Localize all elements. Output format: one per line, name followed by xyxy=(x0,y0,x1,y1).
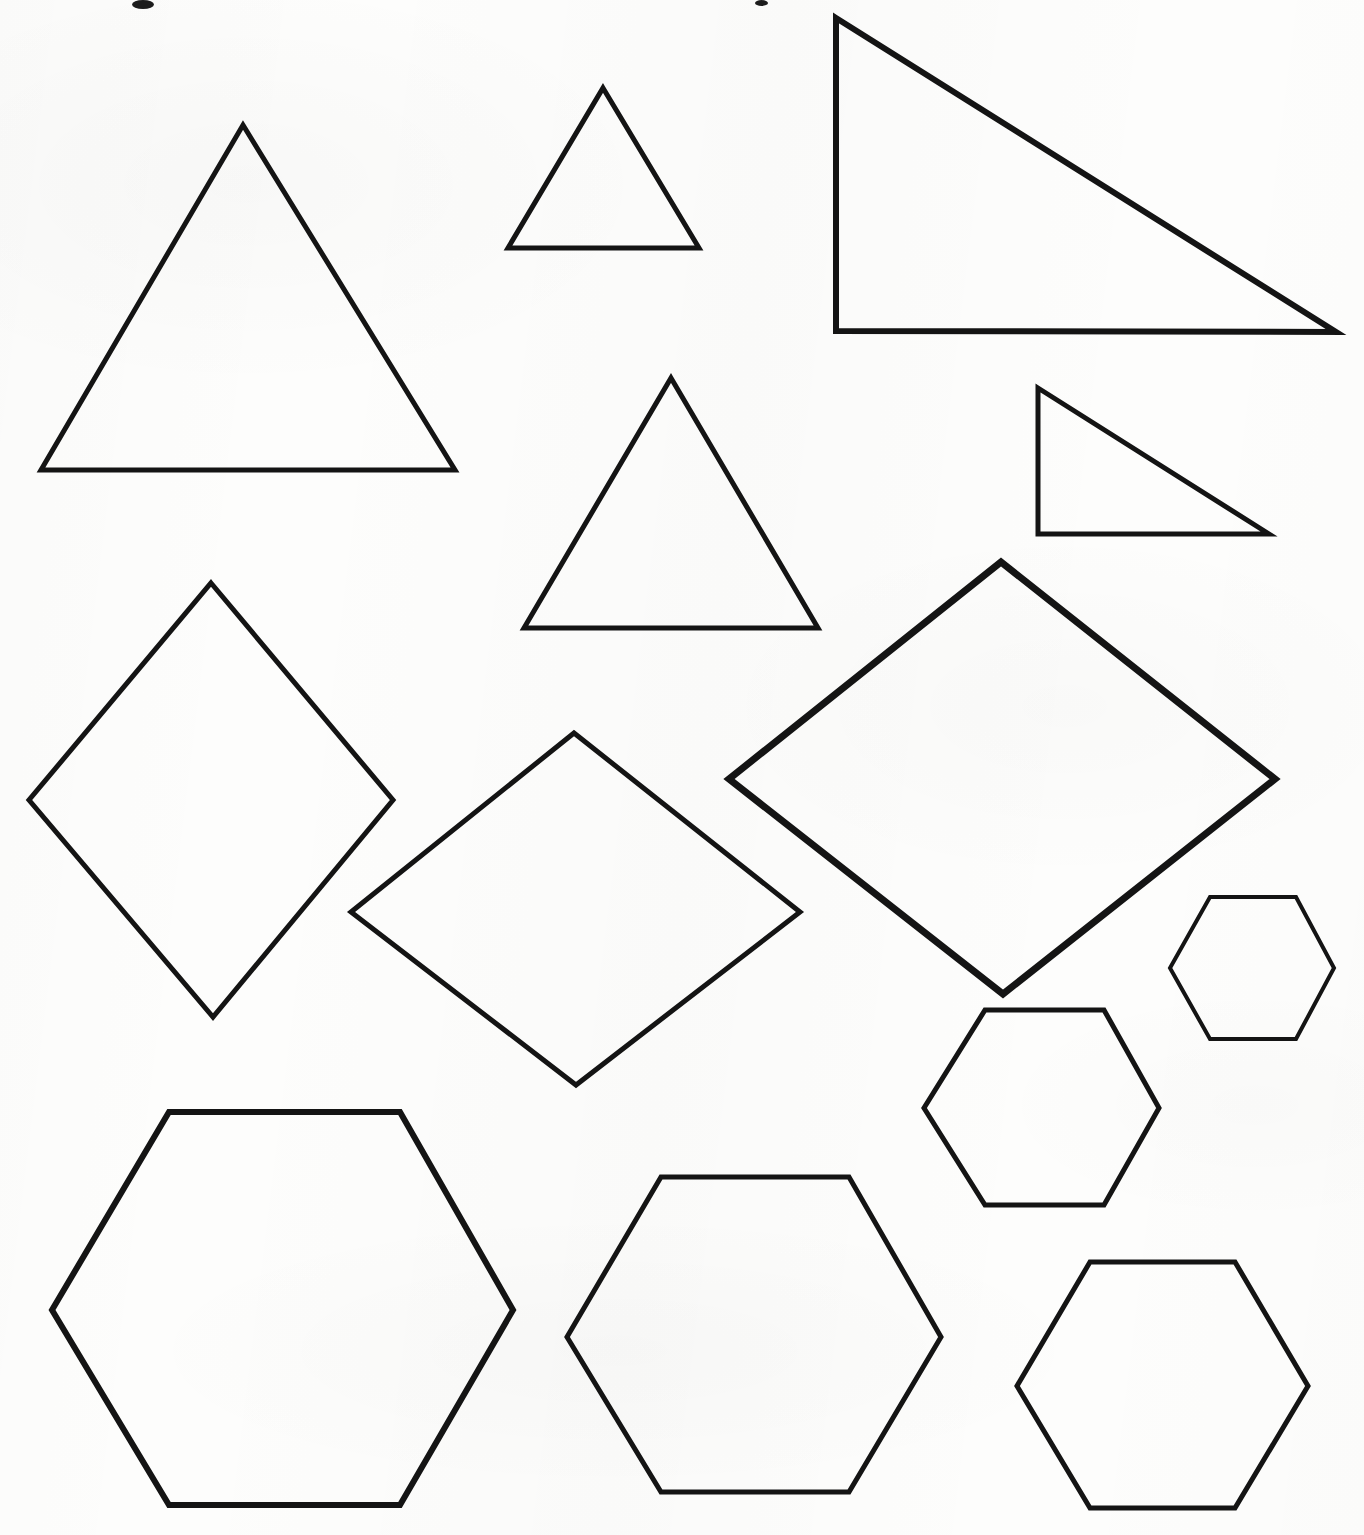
shape-group xyxy=(29,18,1336,1508)
triangle-right-large xyxy=(836,18,1336,332)
triangle-equilateral-small xyxy=(508,88,699,248)
hexagon-medium-right xyxy=(924,1010,1159,1205)
hexagon-large-left xyxy=(52,1112,513,1505)
hexagon-small-right xyxy=(1170,897,1334,1039)
shape-canvas xyxy=(0,0,1364,1535)
triangle-equilateral-large xyxy=(41,125,455,470)
worksheet-page xyxy=(0,0,1364,1535)
rhombus-tall-left xyxy=(29,583,393,1017)
hexagon-medium-bottom-right xyxy=(1017,1262,1308,1508)
triangle-equilateral-medium xyxy=(524,378,818,628)
triangle-right-small xyxy=(1038,388,1269,534)
hexagon-medium-center-bottom xyxy=(567,1177,941,1492)
